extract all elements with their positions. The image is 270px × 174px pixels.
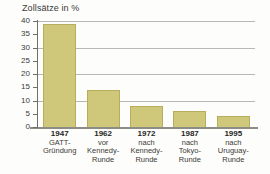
category-sublabel-line-3: Runde (125, 156, 168, 165)
category-label-1947: 1947GATT-Gründung (38, 130, 81, 156)
y-tick-label-5: 5 (10, 110, 30, 118)
y-tick-label-40: 40 (10, 17, 30, 25)
bar-1947 (43, 24, 76, 127)
bar-1987 (173, 111, 206, 127)
y-tick-label-10: 10 (10, 97, 30, 105)
y-tick-label-35: 35 (10, 30, 30, 38)
y-tick-label-0: 0 (10, 123, 30, 131)
category-sublabel-line-2: Gründung (38, 147, 81, 156)
y-tick-label-15: 15 (10, 83, 30, 91)
bar-chart: Zollsätze in % 0510152025303540 1947GATT… (0, 0, 270, 174)
y-tick-mark-0 (33, 127, 38, 128)
y-tick-label-20: 20 (10, 70, 30, 78)
category-sublabel-line-3: Runde (168, 156, 211, 165)
bar-1995 (217, 116, 250, 127)
plot-area (38, 21, 255, 127)
gridline-40 (38, 21, 255, 22)
x-axis-categories: 1947GATT-Gründung1962vorKennedy-Runde197… (38, 130, 255, 174)
category-label-1987: 1987nachTokyo-Runde (168, 130, 211, 164)
category-label-1972: 1972nachKennedy-Runde (125, 130, 168, 164)
chart-title: Zollsätze in % (22, 3, 79, 13)
category-label-1995: 1995nachUruguay-Runde (212, 130, 255, 164)
category-sublabel-line-3: Runde (81, 156, 124, 165)
bar-1972 (130, 106, 163, 127)
bar-1962 (87, 90, 120, 127)
y-tick-label-30: 30 (10, 44, 30, 52)
category-sublabel-line-3: Runde (212, 156, 255, 165)
category-label-1962: 1962vorKennedy-Runde (81, 130, 124, 164)
y-tick-label-25: 25 (10, 57, 30, 65)
